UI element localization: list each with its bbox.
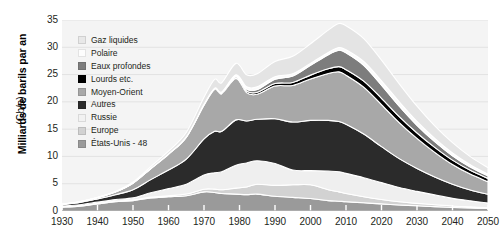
- legend-item: Polaire: [78, 47, 188, 60]
- legend-item-label: Lourds etc.: [91, 75, 133, 84]
- x-tick-1950: 1950: [113, 216, 153, 227]
- x-tick-1960: 1960: [149, 216, 189, 227]
- legend-item: Moyen-Orient: [78, 86, 188, 99]
- stacked-area-chart: Milliards de barils par an (Gb/a) 35 30 …: [0, 0, 503, 240]
- legend-item-label: Europe: [91, 126, 118, 135]
- y-tick-20: 20: [28, 96, 58, 106]
- y-tick-15: 15: [28, 124, 58, 134]
- legend-swatch-icon: [78, 101, 86, 109]
- legend-item-label: États-Unis - 48: [91, 139, 147, 148]
- x-tick-1970: 1970: [184, 216, 224, 227]
- y-tick-30: 30: [28, 42, 58, 52]
- y-tick-10: 10: [28, 151, 58, 161]
- legend-item: Eaux profondes: [78, 60, 188, 73]
- legend-item: Europe: [78, 124, 188, 137]
- legend-item-label: Moyen-Orient: [91, 88, 143, 97]
- legend-item: Russie: [78, 111, 188, 124]
- legend-item-label: Russie: [91, 113, 117, 122]
- legend-item: Lourds etc.: [78, 73, 188, 86]
- legend-swatch-icon: [78, 62, 86, 70]
- legend-item-label: Eaux profondes: [91, 62, 151, 71]
- x-tick-2000: 2000: [291, 216, 331, 227]
- legend-item-label: Autres: [91, 100, 116, 109]
- legend-item: Gaz liquides: [78, 34, 188, 47]
- x-tick-2050: 2050: [468, 216, 503, 227]
- y-tick-5: 5: [28, 178, 58, 188]
- x-tick-1930: 1930: [42, 216, 82, 227]
- x-tick-1990: 1990: [255, 216, 295, 227]
- x-tick-2020: 2020: [362, 216, 402, 227]
- x-tick-1940: 1940: [78, 216, 118, 227]
- legend-swatch-icon: [78, 49, 86, 57]
- legend-swatch-icon: [78, 88, 86, 96]
- x-axis-tick-labels: 1930194019501960197019801990200020102020…: [0, 216, 503, 232]
- legend-swatch-icon: [78, 75, 86, 83]
- legend-swatch-icon: [78, 140, 86, 148]
- y-tick-25: 25: [28, 69, 58, 79]
- y-axis-tick-labels: 35 30 25 20 15 10 5 0: [26, 0, 58, 215]
- legend-swatch-icon: [78, 36, 86, 44]
- y-tick-35: 35: [28, 15, 58, 25]
- legend-swatch-icon: [78, 114, 86, 122]
- y-axis-units: (Gb/a): [15, 36, 26, 186]
- y-tick-0: 0: [28, 206, 58, 216]
- x-tick-2040: 2040: [433, 216, 473, 227]
- x-tick-2030: 2030: [397, 216, 437, 227]
- chart-legend: Gaz liquidesPolaireEaux profondesLourds …: [78, 34, 188, 150]
- legend-swatch-icon: [78, 127, 86, 135]
- legend-item: Autres: [78, 98, 188, 111]
- legend-item-label: Gaz liquides: [91, 36, 138, 45]
- x-tick-2010: 2010: [326, 216, 366, 227]
- x-tick-1980: 1980: [220, 216, 260, 227]
- legend-item-label: Polaire: [91, 49, 117, 58]
- legend-item: États-Unis - 48: [78, 137, 188, 150]
